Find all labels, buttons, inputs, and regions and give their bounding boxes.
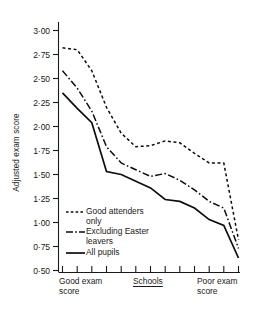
x-axis-caption-right: Poor exam score [197, 277, 238, 296]
legend-item-good-attenders-only: Good attenders only [86, 207, 149, 226]
y-axis [53, 22, 59, 272]
x-axis-caption-mid: Schools [133, 277, 163, 287]
legend-label-good-attenders-only: Good attenders only [86, 207, 149, 226]
legend-swatch-dotted [66, 211, 85, 213]
legend-label-excluding-easter-leavers: Excluding Easter leavers [86, 227, 149, 246]
x-axis-caption-left: Good exam score [59, 277, 102, 296]
chart-canvas [0, 0, 262, 316]
legend-label-all-pupils: All pupils [86, 248, 149, 258]
chart-figure: Adjusted exam score 3·00 2·75 2·50 2·25 … [0, 0, 262, 316]
legend-swatch-dash-dot [66, 231, 85, 233]
chart-legend: Good attenders only Excluding Easter lea… [86, 207, 149, 259]
legend-item-all-pupils: All pupils [86, 248, 149, 258]
x-axis [59, 266, 241, 273]
legend-item-excluding-easter-leavers: Excluding Easter leavers [86, 227, 149, 246]
legend-swatch-solid [66, 252, 85, 254]
